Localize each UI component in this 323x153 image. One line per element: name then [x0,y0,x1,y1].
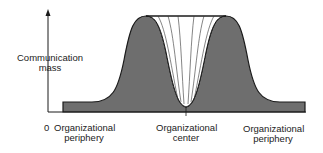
x-label-left-periphery: Organizational periphery [54,123,114,143]
origin-label: 0 [44,123,49,133]
y-axis-label: Communication mass [14,53,86,73]
y-axis-arrow-icon [46,9,51,16]
x-label-center: Organizational center [156,123,216,143]
x-label-right-periphery: Organizational periphery [243,124,303,144]
